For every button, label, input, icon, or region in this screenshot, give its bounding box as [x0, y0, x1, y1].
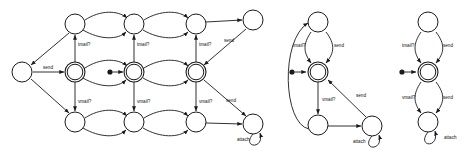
- label-vmail: vmail?: [137, 99, 151, 104]
- state-a1-t1[interactable]: [65, 14, 85, 34]
- label-attach: attach: [237, 137, 250, 142]
- edge-m2-m1-upper: [85, 60, 127, 68]
- edge-t3-topright: [206, 20, 242, 22]
- edge-send-a3-bottom-center: [436, 82, 443, 113]
- state-a1-t3[interactable]: [186, 14, 206, 34]
- label-send: send: [443, 43, 453, 48]
- state-a2-right[interactable]: [362, 116, 382, 136]
- state-a1-b3[interactable]: [186, 112, 206, 132]
- label-attach: attach: [353, 139, 366, 144]
- start-dot-automaton-1: [107, 69, 112, 74]
- edge-t1-t2-lower: [83, 30, 126, 38]
- edge-a2-bottom-to-top-longcurve: [288, 23, 309, 129]
- state-a2-top[interactable]: [308, 12, 328, 32]
- state-a1-m1-outer[interactable]: [65, 62, 85, 82]
- label-tmail: tmail?: [402, 43, 415, 48]
- edge-t1-left: [31, 33, 69, 65]
- state-a1-bottom-right[interactable]: [243, 114, 263, 134]
- state-a2-center-outer[interactable]: [308, 62, 328, 82]
- edge-vmail-a3-center-bottom: [415, 82, 421, 113]
- edge-send-topright-m3: [204, 29, 246, 65]
- start-dot-automaton-2: [289, 69, 294, 74]
- edge-send-a3-top-center: [436, 32, 443, 63]
- state-a1-t2[interactable]: [124, 14, 144, 34]
- state-a1-m3-outer[interactable]: [186, 62, 206, 82]
- edge-m2-m3-lower: [143, 78, 188, 86]
- edge-attach-selfloop-a2: [369, 135, 380, 147]
- start-dot-automaton-3: [399, 69, 404, 74]
- states-group: [12, 10, 438, 136]
- edge-b3-b2-upper: [144, 110, 188, 118]
- edge-t2-t3-lower: [143, 30, 188, 38]
- edge-left-b1: [31, 79, 69, 113]
- label-attach: attach: [444, 135, 457, 140]
- state-a1-left[interactable]: [12, 62, 32, 82]
- state-a1-top-right[interactable]: [243, 10, 263, 30]
- automata-diagram-canvas: send tmail? tmail? tmail? vmail? vmail? …: [0, 0, 469, 154]
- state-a1-b1[interactable]: [65, 112, 85, 132]
- start-markers-group: [107, 69, 416, 74]
- label-send: send: [43, 65, 53, 70]
- state-a3-top[interactable]: [418, 12, 438, 32]
- edge-attach-selfloop-a1: [250, 133, 261, 145]
- state-a3-center-outer[interactable]: [418, 62, 438, 82]
- label-vmail: vmail?: [78, 99, 92, 104]
- label-vmail: vmail?: [402, 95, 416, 100]
- label-vmail: vmail?: [199, 99, 213, 104]
- label-tmail: tmail?: [293, 43, 306, 48]
- state-a3-bottom[interactable]: [418, 112, 438, 132]
- state-a1-m2-outer[interactable]: [124, 62, 144, 82]
- label-tmail: tmail?: [78, 42, 91, 47]
- label-send: send: [334, 43, 344, 48]
- label-send: send: [224, 38, 234, 43]
- edge-b1-b2-lower: [83, 128, 126, 136]
- edge-send-a2-top-center: [326, 32, 333, 63]
- edge-t3-t2-upper: [144, 12, 188, 20]
- edge-t2-t1-upper: [85, 12, 127, 20]
- edge-send-m3-bottomright: [204, 80, 246, 116]
- edge-tmail-a3-center-top: [415, 32, 421, 63]
- edge-m1-m2-lower: [83, 78, 126, 86]
- label-tmail: tmail?: [137, 42, 150, 47]
- label-vmail: vmail?: [322, 97, 336, 102]
- label-send: send: [356, 93, 366, 98]
- state-a2-bottom[interactable]: [308, 115, 328, 135]
- edge-attach-selfloop-a3: [425, 131, 436, 144]
- label-send: send: [443, 95, 453, 100]
- label-send: send: [226, 98, 236, 103]
- edge-m3-m2-upper: [144, 60, 188, 68]
- edge-b2-b1-upper: [85, 110, 127, 118]
- state-a1-b2[interactable]: [124, 112, 144, 132]
- edge-b2-b3-lower: [143, 128, 188, 136]
- label-tmail: tmail?: [199, 42, 212, 47]
- edge-b3-bottomright: [206, 123, 242, 124]
- diagram-svg: send tmail? tmail? tmail? vmail? vmail? …: [0, 0, 469, 154]
- edge-tmail-a2-center-top: [305, 32, 311, 63]
